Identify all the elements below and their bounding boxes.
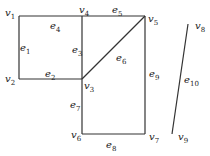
edge-label-e9: e9 (149, 69, 159, 83)
vertice-label-v5: v5 (148, 14, 158, 28)
edge-label-e6: e6 (116, 53, 126, 67)
edge-label-e1: e1 (20, 43, 30, 57)
graph-diagram: v1v2v3v4v5v6v7v8v9e1e2e3e4e5e6e7e8e9e10 (0, 0, 210, 156)
vertice-label-v3: v3 (84, 81, 94, 95)
edge-label-e10: e10 (184, 75, 199, 89)
edge-label-e5: e5 (112, 5, 122, 19)
vertice-label-v6: v6 (71, 130, 81, 144)
vertice-label-v1: v1 (5, 8, 15, 22)
vertice-label-v8: v8 (195, 21, 205, 35)
edge-label-e7: e7 (70, 100, 80, 114)
vertice-label-v9: v9 (178, 132, 188, 146)
vertice-label-v2: v2 (5, 74, 15, 88)
edge-label-e3: e3 (72, 45, 82, 59)
vertice-label-v4: v4 (79, 5, 89, 19)
edge-label-e2: e2 (45, 69, 55, 83)
edge-label-e8: e8 (106, 140, 116, 154)
vertice-label-v7: v7 (149, 132, 159, 146)
edge-label-e4: e4 (50, 21, 60, 35)
edge-e6 (82, 16, 145, 79)
